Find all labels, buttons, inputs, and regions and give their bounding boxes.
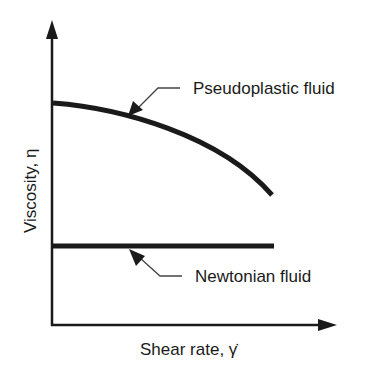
newtonian-label: Newtonian fluid <box>195 267 311 286</box>
newtonian-arrowhead-icon <box>129 249 145 266</box>
y-axis-label: Viscosity, η <box>21 149 40 233</box>
y-axis-arrowhead <box>46 20 58 39</box>
x-axis-arrowhead <box>318 319 337 331</box>
viscosity-diagram: Pseudoplastic fluid Newtonian fluid Shea… <box>0 0 385 379</box>
x-axis-label: Shear rate, γ̇ <box>140 340 238 359</box>
pseudoplastic-leader-line <box>138 88 180 108</box>
newtonian-leader-line <box>140 258 182 276</box>
pseudoplastic-label: Pseudoplastic fluid <box>193 79 335 98</box>
pseudoplastic-arrowhead-icon <box>128 101 143 116</box>
pseudoplastic-curve <box>53 103 272 195</box>
